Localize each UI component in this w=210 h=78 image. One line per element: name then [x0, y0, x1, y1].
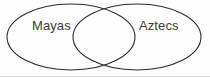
venn-diagram: Mayas Aztecs [0, 0, 210, 78]
venn-label-right: Aztecs [139, 19, 179, 32]
venn-label-left: Mayas [32, 19, 71, 32]
venn-diagram-canvas [0, 0, 210, 78]
